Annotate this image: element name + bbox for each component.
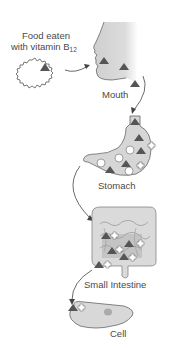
face-illustration [94, 22, 140, 87]
intestine-illustration [92, 207, 156, 278]
food-burst-icon [16, 58, 53, 88]
diagram-canvas [0, 0, 170, 348]
arrow-food-to-mouth [65, 66, 88, 71]
label-cell: Cell [110, 328, 126, 339]
label-small-intestine: Small Intestine [84, 279, 146, 290]
label-stomach: Stomach [98, 180, 136, 191]
stomach-illustration [84, 116, 156, 175]
label-mouth: Mouth [102, 89, 128, 100]
arrow-stomach-to-intestine [73, 166, 90, 218]
cell-illustration [68, 302, 133, 329]
label-food-line1: Food eaten [22, 30, 70, 41]
label-food-line2: with vitamin B12 [11, 41, 77, 52]
